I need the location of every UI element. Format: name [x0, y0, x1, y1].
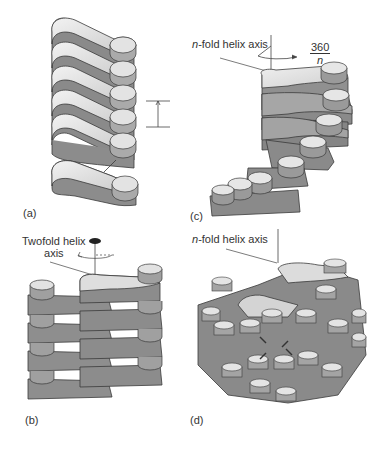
panel-a: (a)	[0, 0, 188, 225]
panel-label-d: (d)	[190, 414, 203, 426]
panel-label-b: (b)	[25, 414, 38, 426]
twofold-symbol-icon	[89, 238, 101, 244]
panel-c: n-fold helix axis 360 n (c)	[188, 0, 376, 225]
helix-subunits	[28, 264, 162, 399]
axis-leader-line	[226, 249, 277, 263]
rotation-angle-fraction: 360 n	[310, 41, 330, 66]
panel-b: Twofold helix axis (b)	[0, 225, 188, 449]
helix-axis-label-d: n-fold helix axis	[192, 233, 268, 245]
helix-axis-label-c: n-fold helix axis	[192, 38, 268, 50]
panel-d: n-fold helix axis (d)	[188, 225, 376, 449]
panel-label-a: (a)	[23, 207, 36, 219]
helix-subunits	[210, 62, 352, 216]
nfold-helix-illustration	[188, 0, 376, 225]
translation-stack-illustration	[0, 0, 188, 225]
axis-leader-line	[50, 262, 93, 275]
repeat-distance-marker	[146, 101, 170, 127]
helix-subunits	[198, 259, 366, 403]
panel-label-c: (c)	[190, 210, 203, 222]
axis-leader-line	[220, 58, 270, 72]
twofold-axis-label: Twofold helix axis	[22, 235, 86, 259]
dense-helix-illustration	[188, 225, 376, 449]
